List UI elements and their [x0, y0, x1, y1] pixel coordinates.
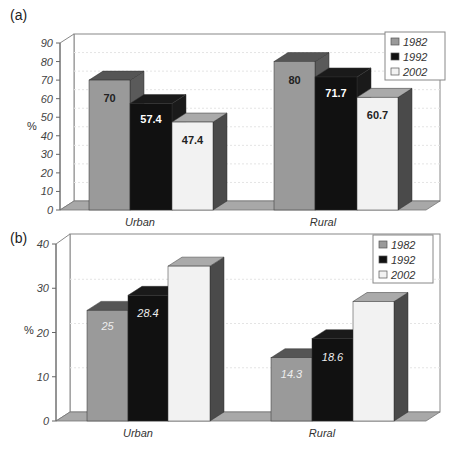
- bar-value-label: 14.3: [281, 368, 303, 380]
- y-tick-label: 70: [41, 74, 54, 86]
- bar-value-label: 60.7: [367, 109, 388, 121]
- legend-label-2002: 2002: [402, 66, 427, 78]
- y-tick-label: 20: [40, 167, 54, 179]
- bar-urban-2002: [168, 257, 224, 421]
- bar-value-label: 70: [103, 92, 115, 104]
- bar-rural-2002: 60.7: [357, 88, 412, 210]
- y-tick-label: 80: [41, 56, 54, 68]
- bar-front: [168, 266, 210, 421]
- panel-label: (a): [10, 7, 27, 23]
- legend-label-1992: 1992: [391, 254, 415, 266]
- bar-front: [353, 302, 394, 421]
- legend-label-2002: 2002: [390, 269, 415, 281]
- y-axis-label: %: [27, 120, 37, 132]
- bar-value-label: 25: [100, 320, 114, 332]
- bar-side: [398, 88, 412, 210]
- chart-panel-b: 010203040(b)%2528.4Urban14.318.6Rural198…: [10, 230, 440, 439]
- legend-label-1992: 1992: [403, 51, 427, 63]
- side-wall: [56, 234, 70, 421]
- bar-value-label: 71.7: [325, 87, 346, 99]
- bar-value-label: 80: [288, 74, 300, 86]
- y-tick-label: 40: [41, 130, 54, 142]
- y-tick-label: 40: [37, 238, 50, 250]
- y-tick-label: 10: [41, 185, 54, 197]
- bar-value-label: 57.4: [140, 113, 162, 125]
- legend-swatch-2002: [391, 68, 399, 75]
- side-wall: [60, 34, 74, 210]
- category-label: Rural: [309, 427, 336, 439]
- legend-swatch-1982: [391, 38, 399, 45]
- legend-swatch-2002: [379, 271, 387, 278]
- legend-label-1982: 1982: [403, 36, 427, 48]
- y-tick-label: 90: [41, 37, 54, 49]
- bar-rural-2002: [353, 293, 408, 421]
- y-tick-label: 50: [41, 111, 54, 123]
- y-tick-label: 30: [37, 282, 50, 294]
- bar-value-label: 18.6: [322, 351, 344, 363]
- figure: 0102030405060708090(a)%7057.447.4Urban80…: [0, 0, 460, 450]
- bar-urban-2002: 47.4: [172, 113, 227, 210]
- category-label: Urban: [123, 427, 153, 439]
- y-tick-label: 0: [47, 204, 54, 216]
- legend-swatch-1992: [379, 256, 387, 263]
- bar-value-label: 28.4: [136, 307, 158, 319]
- category-label: Urban: [125, 216, 155, 228]
- bar-value-label: 47.4: [182, 134, 204, 146]
- bar-side: [394, 293, 408, 421]
- y-tick-label: 20: [36, 327, 50, 339]
- y-tick-label: 30: [41, 148, 54, 160]
- legend-label-1982: 1982: [391, 239, 415, 251]
- chart-panel-a: 0102030405060708090(a)%7057.447.4Urban80…: [10, 7, 445, 228]
- y-tick-label: 0: [43, 415, 50, 427]
- category-label: Rural: [310, 216, 337, 228]
- legend: 198219922002: [373, 235, 433, 283]
- bar-side: [210, 257, 224, 421]
- bar-side: [213, 113, 227, 210]
- y-tick-label: 10: [37, 371, 50, 383]
- legend-swatch-1992: [391, 53, 399, 60]
- y-tick-label: 60: [41, 93, 54, 105]
- y-axis-label: %: [24, 324, 34, 336]
- legend-swatch-1982: [379, 241, 387, 248]
- legend: 198219922002: [385, 32, 445, 80]
- panel-label: (b): [10, 230, 27, 246]
